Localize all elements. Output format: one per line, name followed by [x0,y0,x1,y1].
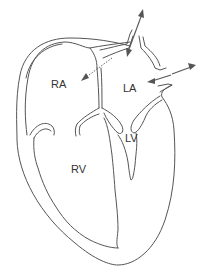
tricuspid-right-leaflet-inner [79,114,99,135]
heart-diagram: RA LA LV RV [0,0,206,273]
label-lv: LV [125,133,138,144]
shunt-arrow-line [85,58,112,78]
right-arrow-upper-head [188,63,196,70]
right-arrow-upper-line [172,67,191,74]
label-ra: RA [51,79,66,90]
right-vessel-lower [158,84,172,92]
ra-inner-wall [25,42,130,135]
upper-arrow-head-bottom [126,48,132,57]
right-arrow-lower-head [147,78,155,84]
mitral-right-leaflet [131,96,162,133]
shunt-arrow-head [81,73,89,81]
tricuspid-left-leaflet-inner [34,129,51,138]
upper-arrow-head-top [138,9,144,18]
heart-drawing [0,0,206,273]
ra-septal-curve [90,48,97,68]
rv-outer-trabecular-wall [34,138,118,248]
upper-vessel-left [100,30,132,50]
label-la: LA [123,83,136,94]
outer-heart-wall [17,38,175,265]
interatrial-septum-left [97,68,99,108]
interventricular-septum [104,118,118,248]
label-rv: RV [71,164,86,175]
interatrial-septum-right [101,68,102,108]
